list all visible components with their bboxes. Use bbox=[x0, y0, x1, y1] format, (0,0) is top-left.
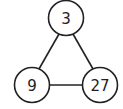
triangle-graph: 3 9 27 bbox=[0, 0, 123, 109]
node-bottom-right: 27 bbox=[83, 68, 118, 103]
edge-3-27 bbox=[73, 34, 93, 69]
node-label: 9 bbox=[27, 77, 37, 95]
edge-3-9 bbox=[39, 34, 59, 69]
node-label: 3 bbox=[61, 10, 71, 28]
node-bottom-left: 9 bbox=[15, 68, 50, 103]
node-top: 3 bbox=[49, 1, 84, 36]
node-label: 27 bbox=[90, 77, 109, 95]
